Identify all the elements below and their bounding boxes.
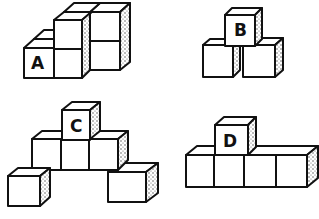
figure-b <box>203 8 283 77</box>
figure-d-label: D <box>223 133 237 150</box>
figure-c <box>8 102 158 206</box>
block-figures-canvas <box>0 0 319 219</box>
figure-d <box>186 117 318 187</box>
figure-c-label: C <box>70 118 82 135</box>
figure-b-label: B <box>234 22 247 39</box>
figure-a-label: A <box>31 55 44 72</box>
